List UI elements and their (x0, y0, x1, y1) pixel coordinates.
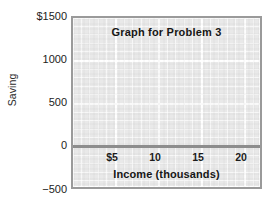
y-axis-title: Saving (5, 60, 19, 120)
y-tick-label-500: 500 (9, 97, 67, 108)
zero-axis-line (73, 145, 260, 148)
y-tick-label-1000: 1000 (9, 54, 67, 65)
x-tick-label-5: $5 (90, 152, 134, 163)
y-tick-label-neg500: −500 (9, 184, 67, 195)
graph-figure: Saving $1500 1000 500 0 −500 Graph for P… (0, 0, 269, 205)
chart-title: Graph for Problem 3 (73, 26, 260, 38)
x-tick-label-15: 15 (176, 152, 220, 163)
x-tick-label-20: 20 (219, 152, 262, 163)
y-tick-label-0: 0 (9, 140, 67, 151)
plot-area: Graph for Problem 3 $5 10 15 20 Income (… (71, 16, 262, 189)
x-tick-label-10: 10 (133, 152, 177, 163)
x-axis-title: Income (thousands) (73, 168, 260, 180)
y-tick-label-1500: $1500 (9, 11, 67, 22)
